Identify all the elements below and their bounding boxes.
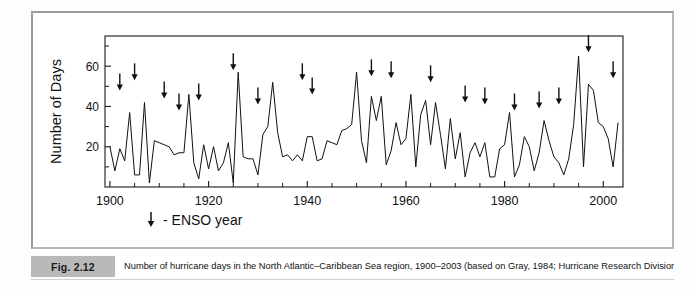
enso-arrow-head: [196, 94, 202, 100]
figure-number-label: Fig. 2.12: [31, 256, 115, 277]
enso-arrow-head: [462, 96, 468, 102]
y-axis-title: Number of Days: [48, 59, 64, 164]
enso-arrow-head: [556, 98, 562, 104]
enso-arrow-1918: [196, 83, 202, 100]
down-arrow-icon: [148, 221, 155, 227]
enso-arrow-1905: [132, 63, 138, 80]
y-tick-label: 60: [86, 60, 100, 74]
enso-arrow-head: [161, 92, 167, 98]
enso-arrow-2002: [610, 61, 616, 78]
enso-arrow-head: [309, 88, 315, 94]
chart-area: 204060190019201940196019802000Number of …: [31, 11, 674, 249]
enso-arrow-1941: [309, 77, 315, 94]
enso-arrow-1914: [176, 94, 182, 111]
x-tick-label: 1980: [491, 194, 519, 208]
x-tick-label: 1960: [392, 194, 420, 208]
enso-arrow-head: [132, 74, 138, 80]
x-tick-label: 2000: [589, 194, 617, 208]
plot-frame: [105, 36, 623, 187]
figure-root: 204060190019201940196019802000Number of …: [0, 0, 695, 291]
enso-arrow-1939: [299, 63, 305, 80]
enso-arrow-1972: [462, 85, 468, 102]
enso-arrow-head: [255, 98, 261, 104]
enso-arrow-head: [428, 76, 434, 82]
x-tick-label: 1940: [293, 194, 321, 208]
enso-arrow-head: [610, 72, 616, 78]
enso-arrow-1930: [255, 87, 261, 104]
enso-arrow-1957: [388, 61, 394, 78]
enso-arrow-1991: [556, 87, 562, 104]
data-line-hurricane-days: [110, 56, 618, 183]
figure-caption-text: Number of hurricane days in the North At…: [115, 256, 674, 277]
x-tick-label: 1900: [96, 194, 124, 208]
enso-arrow-head: [117, 84, 123, 90]
enso-arrow-head: [368, 70, 374, 76]
enso-arrow-head: [176, 105, 182, 111]
enso-arrow-head: [230, 64, 236, 70]
hurricane-days-line-chart: 204060190019201940196019802000Number of …: [31, 11, 674, 249]
y-tick-label: 40: [86, 100, 100, 114]
caption-bottom-rule: [31, 279, 674, 280]
x-tick-label: 1920: [195, 194, 223, 208]
enso-arrow-1976: [482, 87, 488, 104]
enso-arrow-1965: [428, 65, 434, 82]
enso-arrow-1997: [585, 35, 591, 52]
figure-caption-bar: Fig. 2.12 Number of hurricane days in th…: [31, 256, 674, 277]
enso-arrow-1953: [368, 59, 374, 76]
enso-arrow-1911: [161, 81, 167, 98]
enso-arrow-head: [482, 98, 488, 104]
y-tick-label: 20: [86, 140, 100, 154]
enso-arrow-head: [388, 72, 394, 78]
enso-arrow-head: [585, 46, 591, 52]
legend-label: - ENSO year: [163, 212, 243, 228]
enso-arrow-head: [536, 103, 542, 109]
enso-arrow-1902: [117, 73, 123, 90]
enso-arrow-1987: [536, 92, 542, 109]
enso-arrow-1982: [511, 94, 517, 111]
legend-enso: - ENSO year: [148, 212, 243, 228]
enso-arrow-head: [299, 74, 305, 80]
enso-arrow-head: [511, 105, 517, 111]
enso-arrow-1925: [230, 53, 236, 70]
